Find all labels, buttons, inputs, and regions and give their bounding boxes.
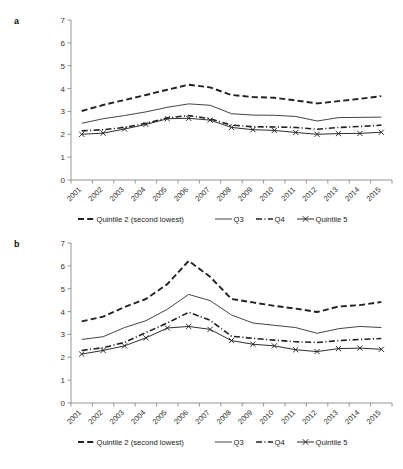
series-line-1 bbox=[82, 85, 382, 111]
x-axis-tick-label: 2010 bbox=[258, 185, 276, 203]
x-axis-tick-label: 2013 bbox=[322, 408, 340, 426]
x-axis-tick-label: 2004 bbox=[129, 185, 147, 203]
x-axis-tick-label: 2002 bbox=[86, 408, 104, 426]
panel-b-plot: 0123456720012002200320042005200620072008… bbox=[0, 235, 403, 469]
legend-label: Quintile 5 bbox=[316, 215, 348, 224]
legend-item-1[interactable]: Quintile 2 (second lowest) bbox=[78, 215, 184, 224]
legend-label: Q4 bbox=[275, 215, 285, 224]
x-axis-tick-label: 2009 bbox=[236, 408, 254, 426]
series-line-1 bbox=[82, 261, 382, 322]
legend-label: Quintile 2 (second lowest) bbox=[97, 215, 185, 224]
y-axis-tick-label: 7 bbox=[61, 16, 66, 25]
y-axis-tick-label: 3 bbox=[61, 330, 66, 339]
x-axis-tick-label: 2005 bbox=[151, 408, 169, 426]
x-axis-tick-label: 2008 bbox=[215, 185, 233, 203]
x-axis-tick-label: 2014 bbox=[343, 408, 361, 426]
legend-label: Quintile 2 (second lowest) bbox=[97, 438, 185, 447]
x-axis-tick-label: 2012 bbox=[300, 408, 318, 426]
y-axis-tick-label: 0 bbox=[61, 176, 66, 185]
y-axis-tick-label: 4 bbox=[61, 308, 66, 317]
x-axis-tick-label: 2005 bbox=[151, 185, 169, 203]
legend-label: Q3 bbox=[234, 438, 244, 447]
x-axis-tick-label: 2012 bbox=[300, 185, 318, 203]
legend-item-3[interactable]: Q4 bbox=[256, 215, 285, 224]
y-axis-tick-label: 0 bbox=[61, 399, 66, 408]
legend-label: Quintile 5 bbox=[316, 438, 348, 447]
y-axis-tick-label: 5 bbox=[61, 285, 66, 294]
chart-panel-b: b 01234567200120022003200420052006200720… bbox=[0, 235, 403, 469]
y-axis-tick-label: 2 bbox=[61, 353, 66, 362]
x-axis-tick-label: 2006 bbox=[172, 185, 190, 203]
x-axis-tick-label: 2014 bbox=[343, 185, 361, 203]
y-axis-tick-label: 6 bbox=[61, 262, 66, 271]
series-line-2 bbox=[82, 104, 382, 123]
x-axis-tick-label: 2013 bbox=[322, 185, 340, 203]
x-axis-tick-label: 2015 bbox=[365, 408, 383, 426]
x-axis-tick-label: 2015 bbox=[365, 185, 383, 203]
x-axis-tick-label: 2003 bbox=[108, 408, 126, 426]
x-axis-tick-label: 2004 bbox=[129, 408, 147, 426]
y-axis-tick-label: 2 bbox=[61, 130, 66, 139]
legend-item-4[interactable]: Quintile 5 bbox=[297, 438, 348, 447]
x-axis-tick-label: 2011 bbox=[279, 408, 297, 426]
x-axis-tick-label: 2008 bbox=[215, 408, 233, 426]
legend-item-2[interactable]: Q3 bbox=[215, 215, 244, 224]
x-axis-tick-label: 2007 bbox=[193, 408, 211, 426]
chart-panel-a: a 01234567200120022003200420052006200720… bbox=[0, 0, 403, 234]
legend-item-4[interactable]: Quintile 5 bbox=[297, 215, 348, 224]
x-axis-tick-label: 2010 bbox=[258, 408, 276, 426]
x-axis-tick-label: 2009 bbox=[236, 185, 254, 203]
data-point-marker-x bbox=[143, 335, 148, 340]
legend-item-2[interactable]: Q3 bbox=[215, 438, 244, 447]
x-axis-tick-label: 2011 bbox=[279, 185, 297, 203]
series-line-2 bbox=[82, 294, 382, 339]
x-axis-tick-label: 2003 bbox=[108, 185, 126, 203]
y-axis-tick-label: 1 bbox=[61, 376, 66, 385]
y-axis-tick-label: 1 bbox=[61, 153, 66, 162]
legend-item-3[interactable]: Q4 bbox=[256, 438, 285, 447]
y-axis-tick-label: 4 bbox=[61, 85, 66, 94]
y-axis-tick-label: 5 bbox=[61, 62, 66, 71]
legend-item-1[interactable]: Quintile 2 (second lowest) bbox=[78, 438, 184, 447]
y-axis-tick-label: 3 bbox=[61, 107, 66, 116]
x-axis-tick-label: 2006 bbox=[172, 408, 190, 426]
x-axis-tick-label: 2007 bbox=[193, 185, 211, 203]
x-axis-tick-label: 2001 bbox=[65, 408, 83, 426]
legend-label: Q4 bbox=[275, 438, 285, 447]
figure-two-panel-line-charts: a 01234567200120022003200420052006200720… bbox=[0, 0, 403, 469]
x-axis-tick-label: 2001 bbox=[65, 185, 83, 203]
y-axis-tick-label: 7 bbox=[61, 239, 66, 248]
x-axis-tick-label: 2002 bbox=[86, 185, 104, 203]
legend-label: Q3 bbox=[234, 215, 244, 224]
y-axis-tick-label: 6 bbox=[61, 39, 66, 48]
panel-a-plot: 0123456720012002200320042005200620072008… bbox=[0, 0, 403, 234]
